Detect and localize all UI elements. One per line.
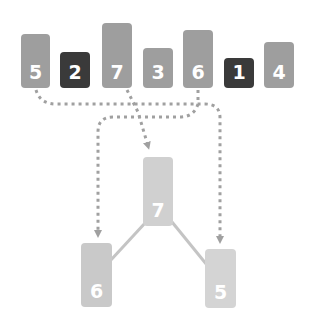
path-5-to-right — [36, 90, 220, 240]
array-item-3: 3 — [143, 48, 173, 88]
array-item-label: 7 — [110, 63, 123, 82]
tree-root-node: 7 — [143, 157, 173, 226]
array-item-2: 2 — [60, 52, 90, 88]
tree-left-node: 6 — [81, 243, 112, 307]
array-item-label: 3 — [151, 63, 164, 82]
array-item-4: 4 — [264, 42, 294, 88]
array-item-label: 5 — [29, 63, 42, 82]
tree-right-label: 5 — [214, 283, 227, 302]
array-item-7: 7 — [102, 23, 132, 88]
array-item-1: 1 — [224, 58, 254, 88]
array-item-6: 6 — [183, 30, 213, 88]
array-item-5: 5 — [21, 34, 50, 88]
tree-root-label: 7 — [151, 201, 164, 220]
tree-edge-left — [110, 222, 146, 261]
array-item-label: 4 — [272, 63, 285, 82]
array-item-label: 1 — [232, 63, 245, 82]
array-item-label: 6 — [191, 63, 204, 82]
array-item-label: 2 — [68, 63, 81, 82]
tree-edge-right — [172, 222, 207, 265]
tree-left-label: 6 — [90, 282, 103, 301]
path-7-to-root — [127, 90, 148, 146]
tree-right-node: 5 — [205, 249, 236, 308]
